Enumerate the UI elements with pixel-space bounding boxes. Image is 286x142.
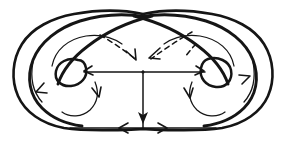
separatrix-right <box>134 16 228 84</box>
dashed-stub-right <box>185 44 196 57</box>
arrow-inner-right <box>184 88 193 98</box>
arrow-outer-left <box>36 83 47 93</box>
inner-boundary-left <box>30 15 146 126</box>
figure-root <box>0 0 286 142</box>
phase-portrait-svg <box>0 0 286 142</box>
inner-boundary-right <box>140 15 256 126</box>
arrow-outer-right <box>239 75 250 84</box>
stagnation-point <box>141 70 144 73</box>
separatrix-left <box>58 16 152 84</box>
arrow-dashed-left <box>126 49 136 60</box>
